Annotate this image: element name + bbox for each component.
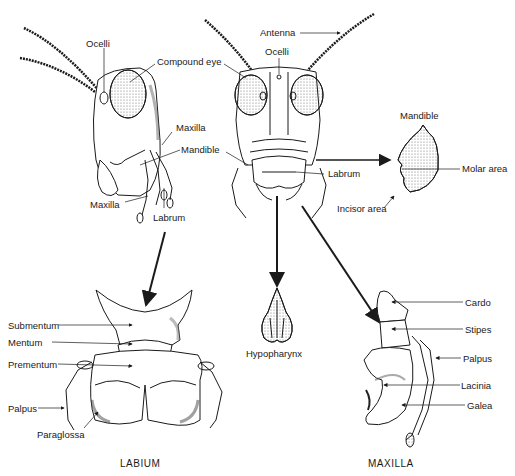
label-paraglossa: Paraglossa	[37, 429, 85, 440]
label-maxilla-upper: Maxilla	[176, 122, 206, 133]
caption-maxilla: MAXILLA	[368, 458, 414, 469]
labium-drawing	[66, 290, 222, 430]
label-mentum: Mentum	[8, 337, 42, 348]
label-cardo: Cardo	[465, 297, 491, 308]
label-galea: Galea	[467, 400, 492, 411]
label-hypopharynx: Hypopharynx	[246, 348, 302, 359]
lateral-head	[20, 28, 173, 223]
label-labrum-frontal: Labrum	[328, 168, 360, 179]
label-submentum: Submentum	[8, 320, 59, 331]
label-compound-eye: Compound eye	[157, 56, 221, 67]
label-palpus-labium: Palpus	[8, 403, 37, 414]
hypopharynx-drawing	[262, 288, 293, 342]
label-antenna: Antenna	[260, 27, 295, 38]
label-molar-area: Molar area	[462, 163, 507, 174]
label-ocelli-lateral: Ocelli	[86, 38, 110, 49]
caption-labium: LABIUM	[120, 458, 160, 469]
label-stipes: Stipes	[465, 324, 491, 335]
label-ocelli-frontal: Ocelli	[265, 46, 289, 57]
label-palpus-maxilla: Palpus	[463, 353, 492, 364]
label-mandible-lateral: Mandible	[181, 144, 220, 155]
label-maxilla-lower: Maxilla	[90, 199, 120, 210]
label-mandible-title: Mandible	[400, 110, 439, 121]
frontal-head	[205, 14, 374, 218]
mandible-detail	[398, 125, 438, 192]
diagram-drawing	[0, 0, 515, 476]
label-labrum-lateral: Labrum	[153, 212, 185, 223]
mouthparts-diagram: Ocelli Compound eye Maxilla Mandible Max…	[0, 0, 515, 476]
label-incisor-area: Incisor area	[337, 203, 387, 214]
label-lacinia: Lacinia	[461, 380, 491, 391]
label-prementum: Prementum	[8, 359, 57, 370]
